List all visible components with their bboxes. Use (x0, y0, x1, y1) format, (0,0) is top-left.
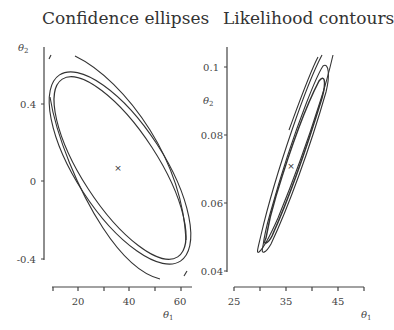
left-y-tick-label: 0 (30, 176, 36, 187)
left-y-axis (41, 47, 44, 260)
left-y-tick-label: 0.4 (20, 99, 36, 110)
right-estimate-marker: × (287, 161, 295, 171)
outer-ellipse-fragment (49, 55, 51, 59)
right-y-tick-label: 0.08 (201, 130, 223, 141)
outer-ellipse-fragment (184, 271, 187, 276)
right-x-tick-label: 25 (228, 296, 241, 307)
right-x-axis-label: θ1 (361, 309, 372, 322)
left-x-tick-label: 20 (72, 296, 85, 307)
right-y-tick-label: 0.06 (201, 198, 223, 209)
right-x-tick-label: 45 (332, 296, 345, 307)
left-x-tick-label: 60 (174, 296, 187, 307)
left-y-axis-label: θ2 (18, 42, 29, 55)
middle-contour (262, 65, 328, 252)
left-x-axis-label: θ1 (163, 309, 174, 322)
left-chart: θ2 0.4 0 -0.4 20 40 60 θ1 × (17, 42, 218, 322)
left-x-axis (52, 287, 192, 291)
right-contours (258, 55, 333, 252)
right-x-tick-label: 35 (280, 296, 293, 307)
right-chart: 0.1 θ2 0.08 0.06 0.04 25 35 45 θ1 × (201, 47, 372, 322)
right-y-axis (224, 47, 227, 272)
right-y-tick-label: 0.04 (201, 266, 223, 277)
right-y-axis-label: θ2 (203, 95, 214, 108)
left-y-tick-label: -0.4 (17, 254, 36, 265)
left-estimate-marker: × (114, 163, 122, 173)
left-x-tick-label: 40 (123, 296, 136, 307)
right-x-axis (234, 287, 364, 291)
right-y-tick-label: 0.1 (203, 62, 219, 73)
